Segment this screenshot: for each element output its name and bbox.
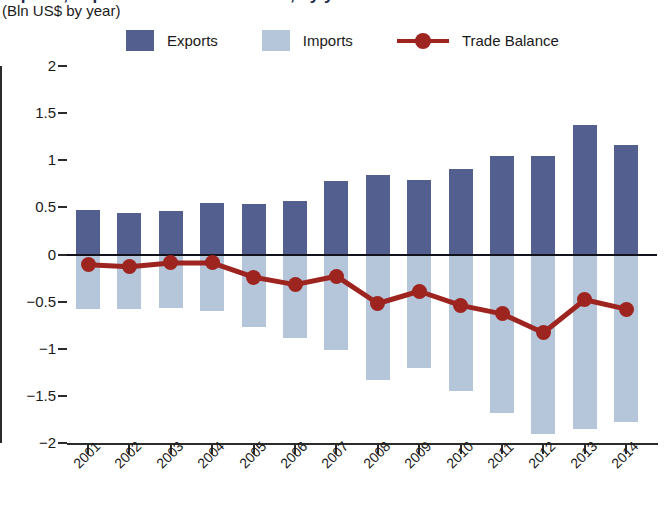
data-point-trade-balance: [288, 277, 303, 292]
chart-legend: ExportsImportsTrade Balance: [126, 28, 603, 52]
data-point-trade-balance: [81, 257, 96, 272]
legend-item-trade-balance[interactable]: Trade Balance: [397, 30, 559, 51]
data-point-trade-balance: [412, 284, 427, 299]
y-axis-tick: [58, 348, 67, 350]
trade-balance-line: [67, 66, 657, 443]
legend-item-imports[interactable]: Imports: [262, 30, 353, 51]
data-point-trade-balance: [453, 298, 468, 313]
y-axis-tick: [58, 395, 67, 397]
y-axis-tick-label: 1.5: [8, 104, 56, 121]
y-axis-tick-label: −1: [8, 340, 56, 357]
legend-swatch-exports: [126, 30, 154, 51]
legend-line-dot: [415, 33, 431, 49]
data-point-trade-balance: [619, 302, 634, 317]
legend-line-marker-icon: [397, 30, 449, 51]
x-axis-line: [67, 443, 658, 445]
legend-label: Trade Balance: [462, 32, 559, 49]
y-axis-tick-label: −2: [8, 434, 56, 451]
plot-area: [67, 66, 657, 443]
legend-label: Exports: [167, 32, 218, 49]
legend-label: Imports: [303, 32, 353, 49]
y-axis-tick: [58, 254, 67, 256]
y-axis-tick: [58, 442, 67, 444]
legend-swatch-imports: [262, 30, 290, 51]
y-axis-tick-label: 2: [8, 57, 56, 74]
y-axis-tick: [58, 301, 67, 303]
data-point-trade-balance: [246, 270, 261, 285]
y-axis-tick: [58, 206, 67, 208]
y-axis-tick: [58, 159, 67, 161]
data-point-trade-balance: [329, 269, 344, 284]
y-axis-tick-label: −0.5: [8, 293, 56, 310]
y-axis-tick-label: 0.5: [8, 198, 56, 215]
y-axis-labels: 21.510.50−0.5−1−1.5−2: [0, 0, 56, 513]
data-point-trade-balance: [495, 306, 510, 321]
y-axis-tick: [58, 112, 67, 114]
y-axis-tick-label: 0: [8, 246, 56, 263]
legend-item-exports[interactable]: Exports: [126, 30, 218, 51]
y-axis-tick-label: −1.5: [8, 387, 56, 404]
y-axis-tick: [58, 65, 67, 67]
y-axis-tick-label: 1: [8, 151, 56, 168]
